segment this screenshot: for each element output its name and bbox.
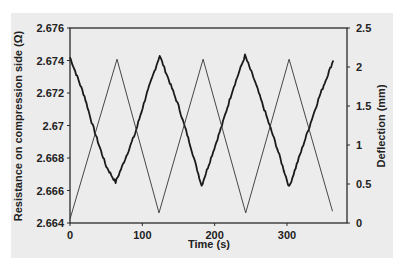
y-tick-label-left: 2.674	[36, 55, 64, 67]
y-tick-label-left: 2.668	[36, 152, 64, 164]
y-axis-title-left: Resistance on compression side (Ω)	[12, 30, 24, 221]
y-tick-label-left: 2.666	[36, 185, 64, 197]
y-tick-label-left: 2.672	[36, 87, 64, 99]
y-tick-label-right: 2.5	[356, 22, 371, 34]
x-axis-title: Time (s)	[188, 238, 230, 250]
axes	[67, 28, 350, 226]
dual-axis-line-chart: 01002003002.6642.6662.6682.672.6722.6742…	[0, 0, 402, 278]
plot-frame	[70, 28, 347, 223]
y-tick-label-left: 2.664	[36, 217, 64, 229]
x-tick-label: 0	[67, 229, 73, 241]
y-tick-label-right: 1	[356, 139, 362, 151]
y-tick-label-left: 2.676	[36, 22, 64, 34]
x-tick-label: 300	[278, 229, 296, 241]
deflection-line	[70, 59, 333, 219]
series-layer	[70, 55, 333, 220]
x-tick-label: 100	[133, 229, 151, 241]
y-tick-label-right: 0	[356, 217, 362, 229]
y-tick-label-right: 1.5	[356, 100, 371, 112]
tick-labels: 01002003002.6642.6662.6682.672.6722.6742…	[36, 22, 371, 241]
y-tick-label-left: 2.67	[43, 120, 64, 132]
y-axis-title-right: Deflection (mm)	[375, 84, 387, 167]
y-tick-label-right: 2	[356, 61, 362, 73]
y-tick-label-right: 0.5	[356, 178, 371, 190]
